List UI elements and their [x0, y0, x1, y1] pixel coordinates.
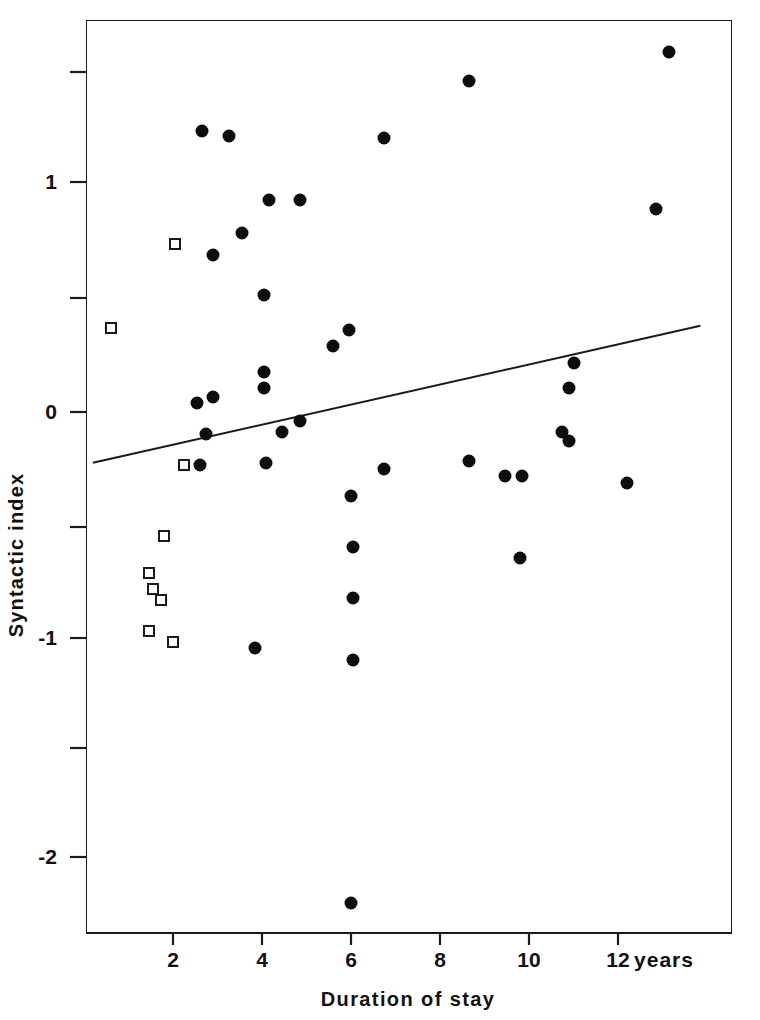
data-point-filled-circle: [498, 470, 511, 483]
data-point-open-square: [178, 459, 190, 471]
data-point-filled-circle: [293, 193, 306, 206]
data-point-filled-circle: [207, 390, 220, 403]
data-point-filled-circle: [347, 653, 360, 666]
data-point-filled-circle: [276, 425, 289, 438]
data-point-filled-circle: [563, 434, 576, 447]
y-tick-label-1: 1: [45, 170, 57, 194]
data-point-filled-circle: [258, 381, 271, 394]
data-point-filled-circle: [222, 129, 235, 142]
x-axis-title: Duration of stay: [321, 988, 496, 1011]
scatter-plot-figure: 1 0 -1 -2 2 4 6 8 10 12 years Duration o…: [0, 0, 760, 1020]
data-point-open-square: [155, 594, 167, 606]
y-tick-label-neg2: -2: [38, 845, 57, 869]
data-point-filled-circle: [567, 357, 580, 370]
data-point-open-square: [105, 322, 117, 334]
data-point-filled-circle: [262, 193, 275, 206]
data-point-filled-circle: [293, 414, 306, 427]
data-point-filled-circle: [378, 131, 391, 144]
data-point-filled-circle: [345, 489, 358, 502]
x-tick-label-12: 12: [606, 948, 629, 972]
x-tick-label-2: 2: [167, 948, 179, 972]
data-point-filled-circle: [200, 428, 213, 441]
data-point-open-square: [143, 567, 155, 579]
data-point-filled-circle: [663, 45, 676, 58]
data-point-filled-circle: [516, 470, 529, 483]
data-point-filled-circle: [342, 324, 355, 337]
data-point-filled-circle: [345, 896, 358, 909]
data-point-filled-circle: [235, 226, 248, 239]
data-point-filled-circle: [193, 459, 206, 472]
data-point-filled-circle: [258, 288, 271, 301]
y-axis-ticks: [70, 72, 86, 857]
x-tick-label-4: 4: [256, 948, 268, 972]
data-point-open-square: [167, 636, 179, 648]
x-tick-label-10: 10: [517, 948, 540, 972]
data-point-filled-circle: [563, 381, 576, 394]
data-point-filled-circle: [514, 551, 527, 564]
data-point-open-square: [143, 625, 155, 637]
x-axis-unit-label: years: [634, 948, 694, 972]
plot-area-frame: [86, 20, 732, 933]
data-point-filled-circle: [649, 202, 662, 215]
data-point-filled-circle: [207, 249, 220, 262]
data-point-filled-circle: [258, 366, 271, 379]
data-point-filled-circle: [347, 540, 360, 553]
data-point-open-square: [158, 530, 170, 542]
y-tick-label-0: 0: [45, 400, 57, 424]
x-axis-ticks: [173, 933, 618, 945]
y-tick-label-neg1: -1: [38, 626, 57, 650]
data-point-filled-circle: [327, 339, 340, 352]
data-point-filled-circle: [191, 397, 204, 410]
data-point-filled-circle: [620, 476, 633, 489]
y-axis-title: Syntactic index: [5, 473, 28, 638]
data-point-filled-circle: [249, 642, 262, 655]
data-point-filled-circle: [195, 125, 208, 138]
data-point-filled-circle: [462, 454, 475, 467]
data-point-filled-circle: [347, 591, 360, 604]
data-point-filled-circle: [462, 74, 475, 87]
data-point-open-square: [169, 238, 181, 250]
x-tick-label-6: 6: [345, 948, 357, 972]
x-tick-label-8: 8: [434, 948, 446, 972]
data-point-filled-circle: [260, 456, 273, 469]
data-point-filled-circle: [378, 463, 391, 476]
